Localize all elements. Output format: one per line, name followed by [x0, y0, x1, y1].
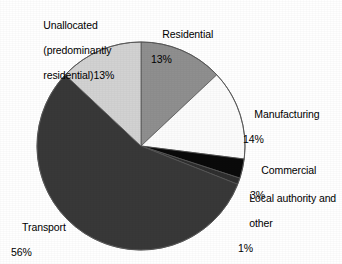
slice-label-residential: Residential 13%: [151, 16, 213, 90]
slice-value-residential: 13%: [151, 53, 213, 65]
slice-value-transport: 56%: [11, 246, 66, 258]
slice-label-unallocated: Unallocated (predominantly residential)1…: [32, 7, 114, 94]
slice-label-local-authority: Local authority and other 1%: [238, 180, 336, 264]
slice-value-manufacturing: 14%: [243, 133, 320, 145]
slice-label-unallocated-line3: residential): [43, 69, 93, 81]
slice-label-transport-text: Transport: [22, 221, 66, 233]
slice-label-manufacturing-text: Manufacturing: [254, 108, 319, 120]
pie-chart-figure: Unallocated (predominantly residential)1…: [0, 0, 342, 264]
slice-value-local-authority: 1%: [238, 242, 336, 254]
slice-value-unallocated: 13%: [93, 69, 114, 81]
slice-label-transport: Transport 56%: [11, 209, 66, 264]
slice-label-local-authority-line2: other: [249, 217, 272, 229]
slice-label-residential-text: Residential: [162, 28, 213, 40]
slice-label-local-authority-line1: Local authority and: [249, 192, 336, 204]
slice-label-unallocated-line2: (predominantly: [43, 44, 111, 56]
slice-label-commercial-text: Commercial: [261, 164, 316, 176]
slice-label-unallocated-line1: Unallocated: [43, 19, 97, 31]
